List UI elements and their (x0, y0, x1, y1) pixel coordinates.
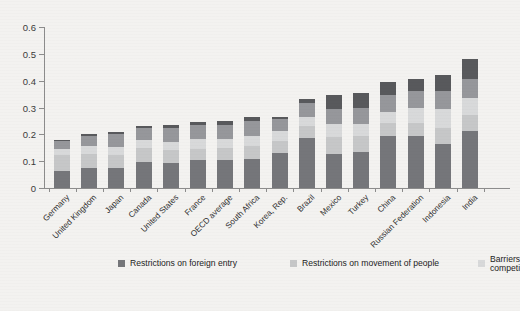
bar-segment (380, 112, 396, 123)
bar-segment (299, 117, 315, 126)
bar-segment (326, 95, 342, 109)
bar-segment (108, 134, 124, 147)
bar-segment (54, 155, 70, 171)
bar-segment (462, 79, 478, 98)
bar-segment (380, 123, 396, 136)
bar-segment (54, 171, 70, 188)
bar-segment (81, 146, 97, 154)
legend-swatch-icon (118, 260, 125, 267)
bar-turkey (353, 93, 369, 188)
bar-segment (136, 140, 152, 148)
bar-segment (190, 149, 206, 161)
legend-item-label: Barriers to competition (490, 255, 520, 272)
bar-segment (435, 75, 451, 91)
bar-segment (326, 137, 342, 154)
legend-item-label: Restrictions on foreign entry (130, 259, 237, 268)
bar-segment (244, 146, 260, 159)
bar-segment (462, 115, 478, 131)
bar-segment (54, 141, 70, 149)
chart-legend: Restrictions on foreign entryRestriction… (118, 256, 478, 271)
bar-segment (408, 136, 424, 188)
bar-china (380, 82, 396, 188)
bar-segment (380, 95, 396, 112)
y-axis-tick-label: 0 (31, 183, 36, 194)
bar-segment (81, 154, 97, 169)
y-axis-tick (39, 81, 44, 82)
bar-segment (190, 125, 206, 139)
bar-segment (136, 128, 152, 140)
bar-segment (272, 141, 288, 153)
y-axis-tick (39, 161, 44, 162)
bar-segment (108, 147, 124, 155)
bar-segment (272, 131, 288, 141)
bar-segment (326, 109, 342, 124)
bar-segment (353, 136, 369, 152)
legend-item[interactable]: Restrictions on foreign entry (118, 256, 290, 271)
y-axis-tick-label: 0.4 (23, 75, 36, 86)
y-axis-tick (39, 54, 44, 55)
bar-segment (272, 119, 288, 130)
bar-segment (408, 91, 424, 108)
bar-segment (190, 139, 206, 148)
plot-area: 00.10.20.30.40.50.6 (44, 27, 510, 188)
legend-swatch-icon (290, 260, 297, 267)
bar-segment (163, 128, 179, 142)
bar-segment (217, 139, 233, 148)
legend-swatch-icon (478, 260, 485, 267)
bar-segment (81, 136, 97, 146)
y-axis-tick (39, 108, 44, 109)
bar-russian-federation (408, 79, 424, 188)
bar-segment (299, 126, 315, 138)
y-axis-tick-label: 0.3 (23, 102, 36, 113)
bar-segment (299, 103, 315, 116)
bar-segment (353, 93, 369, 108)
y-axis-tick-label: 0.1 (23, 156, 36, 167)
bar-segment (353, 124, 369, 136)
bar-segment (408, 79, 424, 92)
bar-segment (462, 98, 478, 115)
bar-segment (244, 136, 260, 146)
y-axis-tick-label: 0.2 (23, 129, 36, 140)
y-axis-tick-label: 0.5 (23, 48, 36, 59)
legend-item-label: Restrictions on movement of people (302, 259, 439, 268)
stacked-bar-chart: 00.10.20.30.40.50.6 Restrictions on fore… (0, 0, 520, 311)
bar-segment (408, 123, 424, 136)
bar-segment (435, 91, 451, 109)
x-axis-tick (49, 188, 50, 192)
bar-segment (462, 59, 478, 79)
x-axis-line (44, 188, 510, 189)
bar-segment (326, 124, 342, 137)
bar-segment (435, 128, 451, 144)
bar-segment (244, 121, 260, 136)
bar-mexico (326, 95, 342, 188)
bar-segment (163, 142, 179, 151)
y-axis-tick (39, 188, 44, 189)
bar-segment (217, 148, 233, 160)
legend-item[interactable]: Barriers to competition (478, 256, 520, 271)
bar-segment (435, 109, 451, 128)
bar-segment (163, 150, 179, 163)
legend-item[interactable]: Restrictions on movement of people (290, 256, 478, 271)
bar-segment (380, 82, 396, 95)
y-axis-tick (39, 134, 44, 135)
bar-segment (408, 108, 424, 123)
bar-germany (54, 140, 70, 188)
y-axis-tick-label: 0.6 (23, 22, 36, 33)
bar-segment (217, 125, 233, 139)
y-axis-tick (39, 27, 44, 28)
bar-segment (353, 108, 369, 124)
